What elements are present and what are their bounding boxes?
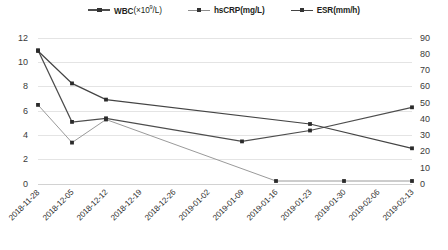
legend-label-esr: ESR(mm/h)	[317, 6, 360, 15]
series-line	[38, 105, 412, 181]
legend-item-wbc[interactable]: WBC(×109/L)	[88, 5, 162, 16]
chart-legend: WBC(×109/L) hsCRP(mg/L) ESR(mm/h)	[0, 2, 448, 18]
data-point[interactable]	[240, 140, 244, 144]
data-point[interactable]	[70, 141, 74, 145]
legend-marker-wbc-icon	[88, 5, 110, 14]
data-point[interactable]	[410, 146, 414, 150]
data-point[interactable]	[274, 179, 278, 183]
data-point[interactable]	[104, 118, 108, 122]
legend-label-hscrp: hsCRP(mg/L)	[214, 6, 265, 15]
series-hscrp	[36, 103, 414, 183]
data-point[interactable]	[36, 49, 40, 53]
data-point[interactable]	[104, 98, 108, 102]
data-point[interactable]	[410, 179, 414, 183]
data-point[interactable]	[70, 120, 74, 124]
data-point[interactable]	[70, 82, 74, 86]
legend-marker-hscrp-icon	[188, 6, 210, 15]
chart-container: WBC(×109/L) hsCRP(mg/L) ESR(mm/h) 12 10 …	[0, 0, 448, 250]
data-point[interactable]	[308, 129, 312, 133]
series-line	[38, 51, 412, 148]
data-point[interactable]	[308, 122, 312, 126]
legend-item-hscrp[interactable]: hsCRP(mg/L)	[188, 6, 265, 15]
legend-label-wbc: WBC(×109/L)	[114, 5, 162, 16]
data-point[interactable]	[36, 103, 40, 107]
series-esr	[36, 49, 414, 150]
data-point[interactable]	[410, 105, 414, 109]
data-point[interactable]	[342, 179, 346, 183]
legend-marker-esr-icon	[291, 6, 313, 15]
legend-item-esr[interactable]: ESR(mm/h)	[291, 6, 360, 15]
plot-area: 12 10 8 6 4 2 0 90 80 70 60 50 40 30 20 …	[0, 26, 448, 250]
